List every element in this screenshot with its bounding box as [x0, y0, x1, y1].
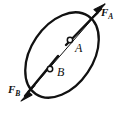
- force-vector-a-label: FA: [101, 7, 113, 21]
- point-b-marker: [47, 66, 52, 71]
- point-a-marker: [67, 37, 72, 42]
- force-b-subscript: B: [15, 89, 20, 98]
- force-vector-b-label: FB: [8, 84, 20, 98]
- force-diagram-figure: FA FB A B: [0, 0, 125, 113]
- point-b-label: B: [57, 66, 64, 78]
- force-a-subscript: A: [108, 12, 113, 21]
- point-a-label: A: [75, 42, 82, 54]
